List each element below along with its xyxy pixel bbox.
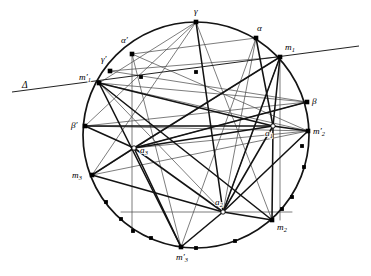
vertex-a3 — [132, 146, 136, 150]
intersection-dot-p-top-inner-left — [139, 75, 143, 79]
secant-line-layer: Δ — [12, 46, 359, 92]
intersection-dot-p-right-low — [290, 195, 294, 199]
vertex-m3prime — [179, 245, 184, 250]
vertex-gammaprime — [108, 69, 113, 74]
vertex-m1 — [278, 55, 283, 60]
label-m2: m2 — [277, 222, 288, 233]
intersection-dot-p-lower-left — [119, 217, 123, 221]
thin-chords-layer — [85, 22, 308, 247]
intersection-dot-p-bottom-left — [149, 236, 153, 240]
vertex-m1prime — [97, 81, 102, 86]
chord-t-m1p-a2 — [99, 83, 223, 212]
label-m2prime: m′2 — [313, 126, 326, 137]
chord-c-m3-a2 — [92, 175, 223, 212]
label-gamma: γ — [194, 6, 198, 16]
label-betaprime: β′ — [70, 120, 79, 130]
label-beta: β — [311, 96, 317, 106]
vertex-alphaprime — [130, 52, 135, 57]
label-m3prime: m′3 — [176, 252, 188, 263]
circle-layer — [83, 22, 309, 248]
chord-c-m2-a1 — [272, 126, 273, 220]
label-gammaprime: γ′ — [101, 54, 108, 64]
intersection-dot-p-lower-left2 — [104, 200, 108, 204]
label-a1: a1 — [265, 128, 273, 139]
main-circle — [83, 22, 309, 248]
intersection-dot-p-right-mid — [302, 165, 306, 169]
vertex-beta — [305, 100, 310, 105]
intersection-dot-p-left-low — [131, 229, 135, 233]
vertex-a2 — [221, 210, 225, 214]
intersection-dot-p-top-inner-mid — [194, 70, 198, 74]
vertex-a1 — [271, 124, 275, 128]
label-m3: m3 — [72, 170, 82, 181]
vertex-gamma — [194, 20, 199, 25]
vertex-alpha — [254, 36, 259, 41]
secant-line-delta — [12, 46, 359, 92]
label-m1: m1 — [285, 42, 295, 53]
chord-t-gp-m1 — [110, 57, 280, 71]
intersection-dot-p-right-upper — [300, 144, 304, 148]
chord-t-ap-a — [132, 38, 256, 54]
label-a2: a2 — [215, 197, 224, 208]
label-alpha: α — [257, 23, 262, 33]
label-alphaprime: α′ — [121, 35, 129, 45]
vertex-m3 — [90, 173, 95, 178]
vertex-betaprime — [83, 124, 88, 129]
geometric-construction-diagram: Δ γαm1βm′2m2m′3m3β′m′1γ′α′a1a2a3 — [0, 0, 371, 276]
chord-t-ap-m2p — [132, 54, 308, 131]
vertex-m2 — [270, 218, 275, 223]
intersection-dot-p-bottom-right — [233, 239, 237, 243]
geometry-figure-root: Δ γαm1βm′2m2m′3m3β′m′1γ′α′a1a2a3 — [0, 0, 371, 276]
chord-c-g-a2 — [196, 22, 223, 212]
point-labels-layer: γαm1βm′2m2m′3m3β′m′1γ′α′a1a2a3 — [70, 6, 326, 263]
intersection-dot-p-bottom-mid — [194, 246, 198, 250]
vertex-m2prime — [306, 129, 311, 134]
label-m1prime: m′1 — [79, 72, 91, 83]
intersection-dot-p-right-low2 — [280, 207, 284, 211]
secant-label-delta: Δ — [21, 79, 28, 90]
